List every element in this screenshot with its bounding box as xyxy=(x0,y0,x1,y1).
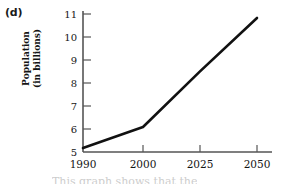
x-axis-tick-labels: 1990 2000 2025 2050 xyxy=(70,158,271,170)
figure-panel: (d) Population (in billions) 11 10 9 8 7… xyxy=(0,0,281,185)
population-data-line xyxy=(83,18,257,148)
x-axis-ticks xyxy=(143,145,257,152)
y-tick-label: 9 xyxy=(71,55,77,66)
y-tick-label: 5 xyxy=(71,147,77,158)
y-axis-ticks xyxy=(83,14,91,129)
y-tick-label: 11 xyxy=(64,9,77,20)
x-tick-label: 1990 xyxy=(70,158,97,170)
population-line-chart: 11 10 9 8 7 6 5 1990 2000 2025 2050 xyxy=(0,0,281,185)
y-tick-label: 7 xyxy=(71,101,77,112)
y-tick-label: 10 xyxy=(64,32,77,43)
y-tick-label: 8 xyxy=(71,78,77,89)
x-tick-label: 2025 xyxy=(187,158,214,170)
caption-fragment: This graph shows that the xyxy=(52,175,197,184)
x-tick-label: 2050 xyxy=(244,158,271,170)
x-tick-label: 2000 xyxy=(130,158,157,170)
y-tick-label: 6 xyxy=(71,124,77,135)
y-axis-tick-labels: 11 10 9 8 7 6 5 xyxy=(64,9,77,158)
